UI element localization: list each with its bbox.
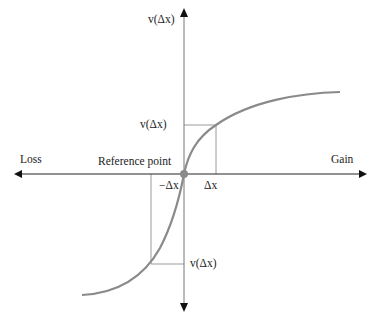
loss-value-label: v(Δx) — [190, 258, 217, 270]
gain-guide-lines — [184, 125, 216, 174]
up-arrow-icon — [180, 8, 188, 17]
loss-label: Loss — [20, 154, 42, 166]
right-arrow-icon — [359, 170, 367, 178]
gain-value-label: v(Δx) — [140, 119, 167, 131]
gain-x-label: Δx — [204, 180, 217, 192]
reference-point-dot — [180, 170, 188, 178]
down-arrow-icon — [180, 303, 188, 312]
gain-label: Gain — [331, 154, 353, 166]
value-function-diagram — [0, 0, 379, 327]
left-arrow-icon — [14, 170, 22, 178]
reference-point-label: Reference point — [98, 156, 171, 168]
y-axis-label: v(Δx) — [148, 14, 175, 26]
loss-x-label: −Δx — [159, 180, 179, 192]
